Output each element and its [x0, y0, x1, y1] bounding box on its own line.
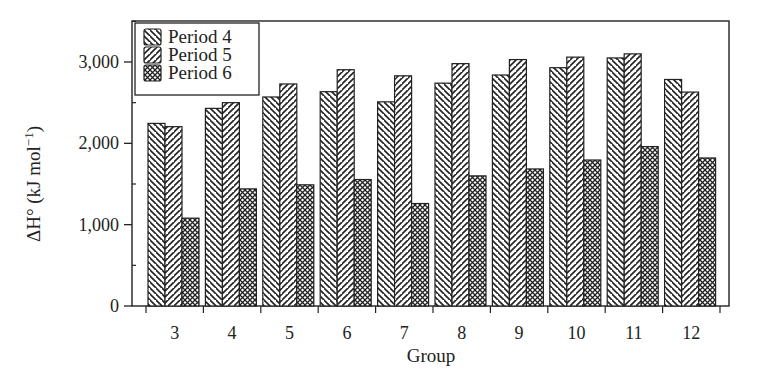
legend-item-period-6: Period 6 [144, 62, 232, 83]
bar-period-4-group-3 [148, 123, 165, 306]
bar-period-5-group-3 [165, 127, 182, 306]
legend: Period 4Period 5Period 6 [135, 23, 259, 95]
y-tick-label: 1,000 [79, 215, 120, 235]
period-5-swatch-icon [144, 47, 161, 63]
bar-group-3 [148, 123, 199, 306]
y-tick-label: 2,000 [79, 133, 120, 153]
bar-group-11 [607, 54, 658, 306]
bar-group-8 [435, 64, 486, 306]
bar-group-9 [492, 60, 543, 306]
bar-period-4-group-9 [492, 75, 509, 306]
bar-period-4-group-5 [263, 97, 280, 306]
bar-group-10 [550, 57, 601, 306]
bar-period-4-group-7 [378, 102, 395, 306]
bar-group-5 [263, 84, 314, 306]
x-tick-label: 6 [342, 323, 351, 343]
bar-period-6-group-6 [354, 180, 371, 306]
bar-period-6-group-11 [641, 147, 658, 306]
bar-period-5-group-5 [280, 84, 297, 306]
bar-chart: 01,0002,0003,000 3456789101112 ΔH° (kJ m… [0, 0, 760, 381]
bar-period-5-group-9 [509, 60, 526, 306]
bar-period-4-group-4 [205, 108, 222, 306]
bar-period-5-group-7 [395, 76, 412, 306]
x-tick-label: 4 [228, 323, 237, 343]
x-axis-title: Group [407, 345, 456, 366]
x-tick-label: 7 [400, 323, 409, 343]
bar-period-4-group-6 [320, 92, 337, 306]
bar-period-6-group-10 [584, 160, 601, 306]
bar-period-6-group-7 [412, 204, 429, 306]
y-axis: 01,0002,0003,000 [79, 21, 137, 316]
y-axis-title: ΔH° (kJ mol−1) [21, 126, 45, 242]
bar-period-6-group-5 [297, 185, 314, 306]
bar-period-5-group-10 [567, 57, 584, 306]
bar-period-4-group-11 [607, 58, 624, 306]
x-tick-label: 10 [568, 323, 586, 343]
x-tick-label: 11 [625, 323, 642, 343]
bar-period-6-group-8 [469, 176, 486, 306]
bar-period-6-group-12 [699, 158, 716, 306]
period-6-swatch-icon [144, 65, 161, 81]
chart-container: 01,0002,0003,000 3456789101112 ΔH° (kJ m… [0, 0, 760, 381]
bar-period-6-group-9 [526, 169, 543, 306]
legend-label: Period 6 [168, 62, 232, 83]
bar-period-5-group-8 [452, 64, 469, 306]
x-tick-label: 12 [682, 323, 700, 343]
bar-period-5-group-12 [682, 92, 699, 306]
bar-period-4-group-8 [435, 83, 452, 306]
bar-period-5-group-11 [624, 54, 641, 306]
bar-period-4-group-12 [665, 79, 682, 306]
bar-group-4 [205, 103, 256, 306]
x-tick-label: 8 [457, 323, 466, 343]
x-axis: 3456789101112 [146, 306, 720, 343]
y-tick-label: 0 [110, 296, 119, 316]
x-tick-label: 5 [285, 323, 294, 343]
bar-period-4-group-10 [550, 68, 567, 306]
y-tick-label: 3,000 [79, 52, 120, 72]
period-4-swatch-icon [144, 29, 161, 45]
x-tick-label: 3 [170, 323, 179, 343]
bar-period-6-group-4 [239, 189, 256, 306]
bar-group-6 [320, 70, 371, 306]
bar-period-6-group-3 [182, 218, 199, 306]
bar-period-5-group-4 [222, 103, 239, 306]
x-tick-label: 9 [515, 323, 524, 343]
bar-period-5-group-6 [337, 70, 354, 306]
bar-group-12 [665, 79, 716, 306]
bar-group-7 [378, 76, 429, 306]
